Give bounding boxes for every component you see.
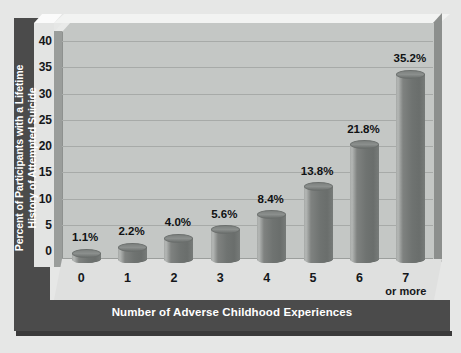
gridline xyxy=(62,67,433,68)
bar-value-label: 13.8% xyxy=(290,165,344,177)
x-tick-label-main: 6 xyxy=(356,271,363,285)
x-tick-label-main: 0 xyxy=(78,271,85,285)
bar-top-cap xyxy=(350,140,379,149)
bar-body xyxy=(257,215,286,263)
bar-body xyxy=(396,74,425,263)
bar-top-cap xyxy=(72,249,101,258)
x-tick-label-main: 3 xyxy=(217,271,224,285)
chart-frame-shadow xyxy=(16,331,452,336)
x-tick-label: 7or more xyxy=(379,272,433,298)
x-tick-label-main: 5 xyxy=(310,271,317,285)
gridline xyxy=(62,41,433,42)
chart-screenshot: 0510152025303540 1.1%2.2%4.0%5.6%8.4%13.… xyxy=(0,0,461,353)
gridline xyxy=(62,120,433,121)
bar-value-label: 21.8% xyxy=(336,123,390,135)
gridline xyxy=(62,94,433,95)
plot-top-wall-face xyxy=(54,14,450,23)
x-tick-label-main: 4 xyxy=(263,271,270,285)
x-tick-label-sub: or more xyxy=(379,285,433,298)
x-tick-label-main: 1 xyxy=(124,271,131,285)
bar-value-label: 5.6% xyxy=(197,208,251,220)
x-tick-label-main: 7 xyxy=(402,271,409,285)
bar-top-cap xyxy=(396,70,425,79)
bar-body xyxy=(211,230,240,263)
bar-top-cap xyxy=(164,234,193,243)
bar-top-cap xyxy=(304,182,333,191)
bar-value-label: 35.2% xyxy=(383,52,437,64)
bar-body xyxy=(350,145,379,263)
y-axis-title: Percent of Participants with a Lifetime … xyxy=(13,8,39,308)
x-axis-title: Number of Adverse Childhood Experiences xyxy=(14,306,450,318)
bar-body xyxy=(304,187,333,263)
bar-value-label: 8.4% xyxy=(244,193,298,205)
bar-top-cap xyxy=(118,243,147,252)
x-tick-label-main: 2 xyxy=(170,271,177,285)
